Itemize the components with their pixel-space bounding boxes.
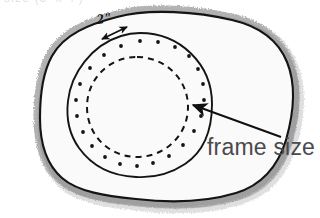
bolt-hole-dot bbox=[81, 130, 85, 134]
bolt-hole-dot bbox=[119, 44, 123, 48]
bolt-hole-dot bbox=[74, 98, 78, 102]
bolt-hole-dot bbox=[199, 114, 203, 118]
bolt-hole-dot bbox=[151, 161, 155, 165]
bolt-hole-dot bbox=[75, 114, 79, 118]
sketch-canvas: size (3' x 4') bbox=[0, 0, 320, 218]
bolt-hole-dot bbox=[156, 40, 160, 44]
bolt-hole-dot bbox=[135, 164, 139, 168]
bolt-hole-dot bbox=[78, 82, 82, 86]
bolt-hole-dot bbox=[103, 155, 107, 159]
bolt-hole-dot bbox=[192, 129, 196, 133]
bolt-hole-dot bbox=[181, 143, 185, 147]
bolt-hole-dot bbox=[202, 98, 206, 102]
bolt-hole-dot bbox=[88, 66, 92, 70]
bolt-hole-dot bbox=[102, 53, 106, 57]
bolt-hole-dot bbox=[90, 144, 94, 148]
bolt-hole-dot bbox=[196, 67, 200, 71]
dimension-label-2in: 2" bbox=[96, 11, 112, 27]
sketch-drawing bbox=[0, 0, 320, 218]
bolt-hole-dot bbox=[167, 154, 171, 158]
bolt-hole-dot bbox=[187, 54, 191, 58]
bolt-hole-dot bbox=[138, 39, 142, 43]
bolt-hole-dot bbox=[118, 162, 122, 166]
bolt-hole-dot bbox=[201, 82, 205, 86]
bolt-hole-dot bbox=[173, 45, 177, 49]
frame-size-label: frame size bbox=[207, 136, 315, 159]
